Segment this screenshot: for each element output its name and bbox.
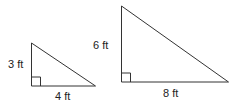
large-horizontal-leg-label: 8 ft	[163, 88, 178, 99]
diagram-canvas	[0, 0, 238, 108]
small-vertical-leg-label: 3 ft	[8, 59, 23, 70]
large-triangle	[122, 6, 229, 82]
small-right-angle-marker	[32, 77, 41, 86]
small-horizontal-leg-label: 4 ft	[55, 91, 70, 102]
small-triangle	[32, 43, 96, 86]
large-right-angle-marker	[122, 73, 131, 82]
large-vertical-leg-label: 6 ft	[93, 40, 108, 51]
